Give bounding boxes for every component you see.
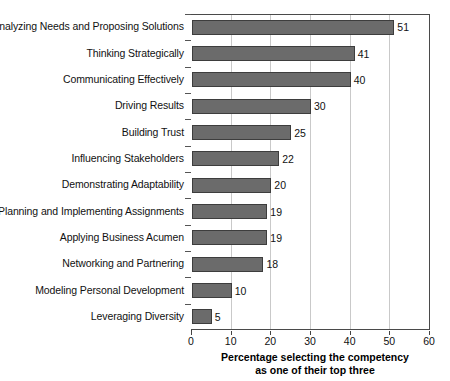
category-label: Thinking Strategically [86, 48, 184, 59]
y-axis-tick [185, 119, 191, 120]
category-label: Communicating Effectively [63, 74, 184, 85]
y-axis-tick [185, 198, 191, 199]
y-axis-tick [185, 304, 191, 305]
bar-row: 19 [192, 204, 430, 219]
bar [192, 230, 267, 245]
y-axis-tick [185, 251, 191, 252]
y-axis-tick [185, 40, 191, 41]
bar-value-label: 30 [314, 98, 326, 114]
bar [192, 283, 232, 298]
bar-row: 18 [192, 257, 430, 272]
bar-row: 41 [192, 46, 430, 61]
bar [192, 72, 351, 87]
bar-value-label: 20 [274, 177, 286, 193]
y-axis-tick [185, 67, 191, 68]
category-label: Planning and Implementing Assignments [0, 206, 184, 217]
bar-row: 40 [192, 72, 430, 87]
category-label: Building Trust [122, 127, 184, 138]
bar [192, 20, 394, 35]
bars-layer: 51414030252220191918105 [192, 14, 430, 330]
x-axis-tick-label: 20 [264, 335, 276, 348]
bar-row: 19 [192, 230, 430, 245]
y-axis-tick [185, 14, 191, 15]
x-axis-tick-label: 40 [344, 335, 356, 348]
x-axis-tick-label: 30 [304, 335, 316, 348]
category-label: Leveraging Diversity [91, 311, 184, 322]
bar [192, 204, 267, 219]
category-label: Networking and Partnering [62, 258, 184, 269]
x-axis-caption-line-1: Percentage selecting the competency [191, 351, 439, 364]
x-axis-tick-label: 60 [423, 335, 435, 348]
bar [192, 125, 291, 140]
bar-value-label: 41 [358, 46, 370, 62]
bar [192, 151, 279, 166]
bar-value-label: 19 [270, 230, 282, 246]
x-axis-tick-label: 10 [225, 335, 237, 348]
y-axis-tick [185, 172, 191, 173]
y-axis-tick [185, 93, 191, 94]
bar-value-label: 10 [235, 283, 247, 299]
bar [192, 178, 271, 193]
bar-value-label: 25 [294, 125, 306, 141]
y-axis-tick [185, 277, 191, 278]
category-label: Driving Results [115, 100, 184, 111]
bar [192, 309, 212, 324]
x-axis-tick-label: 50 [383, 335, 395, 348]
bar [192, 46, 355, 61]
bar [192, 257, 263, 272]
bar-row: 25 [192, 125, 430, 140]
bar-value-label: 40 [354, 72, 366, 88]
bar-row: 5 [192, 309, 430, 324]
bar-row: 10 [192, 283, 430, 298]
bar-row: 51 [192, 20, 430, 35]
category-axis-labels: Analyzing Needs and Proposing SolutionsT… [0, 14, 188, 330]
y-axis-tick [185, 225, 191, 226]
category-label: Applying Business Acumen [60, 232, 184, 243]
bar-row: 30 [192, 99, 430, 114]
y-axis-tick [185, 146, 191, 147]
x-axis-tick-label: 0 [188, 335, 194, 348]
bar-value-label: 19 [270, 204, 282, 220]
category-label: Demonstrating Adaptability [62, 179, 184, 190]
category-label: Modeling Personal Development [35, 285, 184, 296]
bar-row: 22 [192, 151, 430, 166]
bar-row: 20 [192, 178, 430, 193]
bar-value-label: 22 [282, 151, 294, 167]
bar-value-label: 5 [215, 309, 221, 325]
bar-value-label: 18 [266, 256, 278, 272]
bar-chart: Analyzing Needs and Proposing SolutionsT… [0, 0, 450, 381]
category-label: Influencing Stakeholders [71, 153, 184, 164]
x-axis-caption: Percentage selecting the competency as o… [191, 351, 439, 376]
x-axis-tick-labels: 0102030405060 [191, 335, 430, 349]
bar-value-label: 51 [397, 19, 409, 35]
x-axis-caption-line-2: as one of their top three [191, 364, 439, 377]
bar [192, 99, 311, 114]
category-label: Analyzing Needs and Proposing Solutions [0, 21, 184, 32]
